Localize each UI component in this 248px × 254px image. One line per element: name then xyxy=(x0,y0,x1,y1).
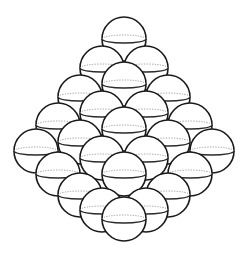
sphere xyxy=(102,197,146,241)
sphere-outline xyxy=(102,197,146,241)
sphere-group xyxy=(14,17,234,241)
sphere-stack-diagram xyxy=(0,0,248,254)
